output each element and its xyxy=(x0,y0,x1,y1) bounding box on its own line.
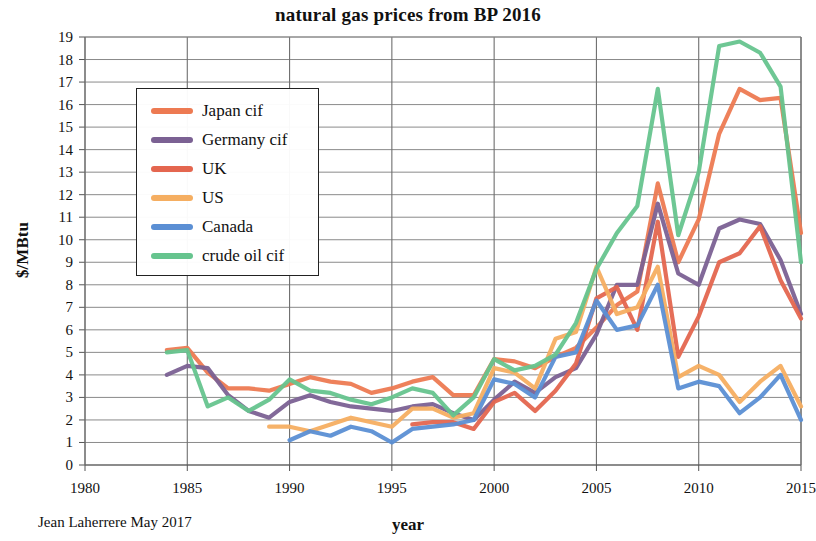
legend-item-label: UK xyxy=(202,159,227,179)
legend-swatch-icon xyxy=(151,224,193,230)
y-axis-tick-label: 19 xyxy=(58,29,73,45)
y-axis-tick-label: 2 xyxy=(66,412,74,428)
y-axis-tick-label: 3 xyxy=(66,389,74,405)
x-axis-tick-label: 1995 xyxy=(377,480,407,496)
chart-container: natural gas prices from BP 2016 $/MBtu 0… xyxy=(0,0,816,541)
legend-item-uk[interactable]: UK xyxy=(151,154,318,183)
legend-item-us[interactable]: US xyxy=(151,183,318,212)
legend-item-canada[interactable]: Canada xyxy=(151,212,318,241)
legend-item-label: Canada xyxy=(202,217,253,237)
legend-swatch-icon xyxy=(151,166,193,172)
y-axis-tick-label: 0 xyxy=(66,457,74,473)
legend-item-label: Japan cif xyxy=(202,101,263,121)
x-axis-tick-label: 1985 xyxy=(172,480,202,496)
y-axis-tick-label: 18 xyxy=(58,52,73,68)
legend-item-label: US xyxy=(202,188,224,208)
x-axis-tick-label: 1980 xyxy=(70,480,100,496)
legend-item-germany-cif[interactable]: Germany cif xyxy=(151,125,318,154)
y-axis-tick-label: 5 xyxy=(66,344,74,360)
legend-item-japan-cif[interactable]: Japan cif xyxy=(151,96,318,125)
legend-item-crude-oil-cif[interactable]: crude oil cif xyxy=(151,241,318,270)
legend-swatch-icon xyxy=(151,253,193,259)
x-axis-tick-label: 1990 xyxy=(275,480,305,496)
y-axis-tick-label: 6 xyxy=(66,322,74,338)
plot-area: 0123456789101112131415161718191980198519… xyxy=(0,0,816,541)
y-axis-tick-label: 13 xyxy=(58,164,73,180)
x-axis-tick-label: 2005 xyxy=(581,480,611,496)
chart-legend: Japan cifGermany cifUKUSCanadacrude oil … xyxy=(136,88,319,276)
y-axis-tick-label: 4 xyxy=(66,367,74,383)
y-axis-tick-label: 10 xyxy=(58,232,73,248)
y-axis-tick-label: 9 xyxy=(66,254,74,270)
x-axis-tick-label: 2010 xyxy=(684,480,714,496)
y-axis-tick-label: 16 xyxy=(58,97,74,113)
legend-swatch-icon xyxy=(151,108,193,114)
credit-text: Jean Laherrere May 2017 xyxy=(38,514,192,531)
x-axis-tick-label: 2000 xyxy=(479,480,509,496)
legend-item-label: crude oil cif xyxy=(202,246,284,266)
y-axis-tick-label: 11 xyxy=(59,209,73,225)
y-axis-tick-label: 12 xyxy=(58,187,73,203)
y-axis-tick-label: 7 xyxy=(66,299,74,315)
legend-swatch-icon xyxy=(151,195,193,201)
y-axis-tick-label: 17 xyxy=(58,74,74,90)
y-axis-tick-label: 15 xyxy=(58,119,73,135)
y-axis-tick-label: 1 xyxy=(66,434,74,450)
legend-item-label: Germany cif xyxy=(202,130,287,150)
y-axis-tick-label: 8 xyxy=(66,277,74,293)
y-axis-tick-label: 14 xyxy=(58,142,74,158)
legend-swatch-icon xyxy=(151,137,193,143)
x-axis-tick-label: 2015 xyxy=(786,480,816,496)
